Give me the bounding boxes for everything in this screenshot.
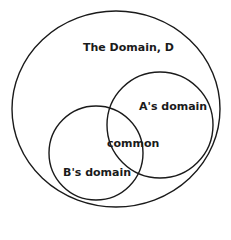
domain-d-label: The Domain, D [83,42,174,53]
a-domain-label: A's domain [139,101,207,112]
a-domain-circle [107,72,213,178]
common-label: common [107,138,159,149]
b-domain-label: B's domain [63,167,131,178]
b-domain-circle [49,106,143,200]
